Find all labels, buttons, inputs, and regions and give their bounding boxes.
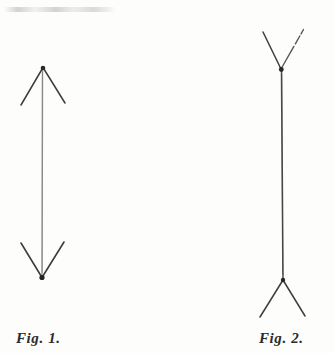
figure-1-caption: Fig. 1. — [16, 330, 61, 347]
fig1-bottom-vertex-blob — [39, 275, 44, 280]
fig1-top-right-fin — [43, 68, 65, 104]
fig2-shaft-core — [282, 74, 283, 274]
fig2-top-vertex-blob — [279, 67, 284, 72]
fig2-top-right-fin — [281, 30, 304, 70]
fig1-bottom-left-fin — [21, 243, 42, 278]
illustration-plate: Fig. 1. Fig. 2. — [0, 0, 334, 353]
figure-1-group — [21, 66, 65, 280]
fig2-bottom-vertex-blob — [281, 278, 285, 282]
figure-2-caption: Fig. 2. — [259, 330, 304, 347]
fig2-top-left-fin — [263, 32, 281, 69]
fig1-top-vertex-blob — [41, 66, 46, 71]
fig2-bottom-right-fin — [283, 280, 305, 316]
figure-2-group — [260, 30, 305, 318]
muller-lyer-drawing — [0, 0, 334, 353]
fig1-bottom-right-fin — [42, 242, 64, 278]
fig1-top-left-fin — [21, 68, 43, 106]
fig2-bottom-left-fin — [260, 280, 283, 317]
